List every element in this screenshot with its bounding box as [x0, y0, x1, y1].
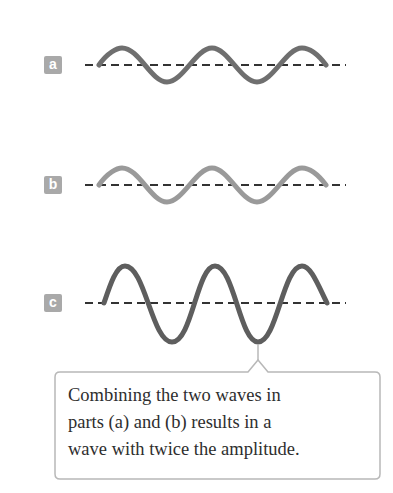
callout-line-1: Combining the two waves in	[68, 382, 378, 409]
wave-b	[99, 168, 326, 202]
panel-a	[85, 48, 346, 82]
wave-a	[99, 48, 326, 82]
callout-text: Combining the two waves in parts (a) and…	[68, 382, 378, 463]
callout-line-2: parts (a) and (b) results in a	[68, 409, 378, 436]
panel-c	[85, 266, 346, 342]
panel-b	[85, 168, 346, 202]
callout-line-3: wave with twice the amplitude.	[68, 436, 378, 463]
